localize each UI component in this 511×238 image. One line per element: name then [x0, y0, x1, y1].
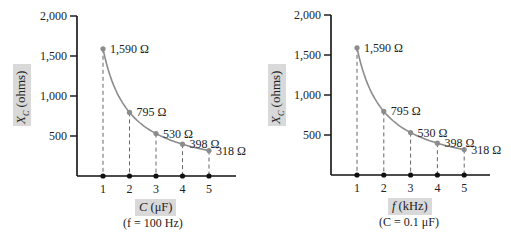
y-tick-label: 1,500 — [294, 48, 321, 62]
data-point — [354, 45, 359, 50]
x-tick-dot — [354, 172, 359, 177]
y-tick-label: 2,000 — [294, 8, 321, 22]
data-point — [408, 130, 413, 135]
data-point-label: 530 Ω — [418, 126, 448, 140]
data-point — [381, 109, 386, 114]
x-tick-dot — [408, 172, 413, 177]
x-tick-label: 4 — [434, 181, 440, 195]
x-tick-label: 3 — [408, 181, 414, 195]
y-tick-label: 500 — [303, 128, 321, 142]
x-tick-dot — [435, 172, 440, 177]
data-point — [462, 147, 467, 152]
x-axis-unit: (kHz) — [395, 199, 427, 213]
y-axis-sub: C — [277, 111, 286, 116]
x-tick-dot — [462, 172, 467, 177]
y-axis-unit: (ohms) — [268, 71, 283, 111]
chart-frequency: 5001,0001,5002,000123451,590 Ω795 Ω530 Ω… — [0, 0, 255, 238]
plot-area: 5001,0001,5002,000123451,590 Ω795 Ω530 Ω… — [0, 0, 511, 238]
x-tick-label: 5 — [461, 181, 467, 195]
x-tick-label: 1 — [354, 181, 360, 195]
x-tick-label: 2 — [381, 181, 387, 195]
y-axis-var: X — [268, 116, 283, 124]
y-axis-label: XC (ohms) — [268, 71, 286, 124]
y-tick-label: 1,000 — [294, 88, 321, 102]
data-point-label: 1,590 Ω — [364, 41, 403, 55]
x-axis-label: f (kHz) — [388, 198, 432, 215]
data-point-label: 795 Ω — [391, 104, 421, 118]
x-tick-dot — [381, 172, 386, 177]
data-point-label: 398 Ω — [444, 136, 474, 150]
data-point — [435, 141, 440, 146]
data-point-label: 318 Ω — [471, 143, 501, 157]
condition-note: (C = 0.1 μF) — [379, 215, 439, 230]
